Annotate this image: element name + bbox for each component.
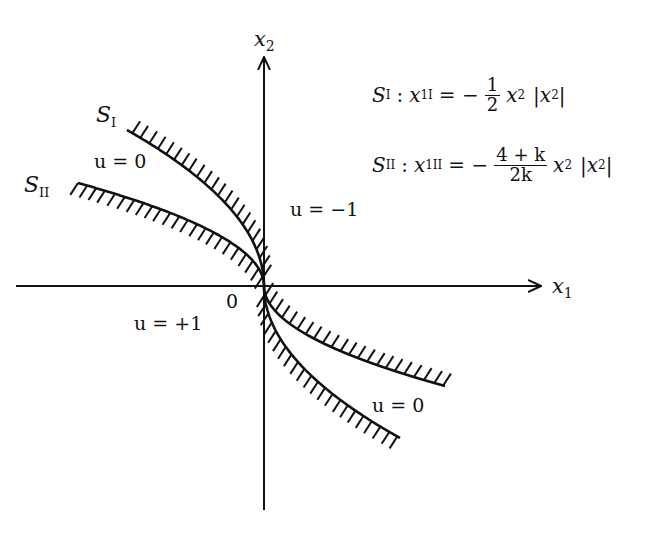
region-label-upper-left: u = 0 [94, 150, 146, 172]
curve-s1-label: SI [96, 102, 116, 130]
equation-s2: SII : x1II = − 4 + k2k x2 |x2| [372, 146, 612, 185]
equation-s2-fraction: 4 + k2k [494, 146, 547, 185]
equation-s1: SI : x1I = − 12 x2 |x2| [372, 76, 566, 115]
origin-label: 0 [226, 290, 238, 312]
x1-axis-label: x1 [552, 274, 573, 301]
x2-axis-label: x2 [254, 27, 275, 54]
region-label-lower-left: u = +1 [134, 312, 202, 334]
s2-hatching [70, 183, 397, 448]
region-label-upper-right: u = −1 [290, 198, 358, 220]
region-label-lower-right: u = 0 [372, 394, 424, 416]
switching-curves-diagram: x2 x1 0 SI SII u = 0 u = −1 u = +1 u = 0 [0, 0, 667, 537]
equation-s1-fraction: 12 [485, 76, 500, 115]
curve-s2-label: SII [24, 172, 49, 200]
